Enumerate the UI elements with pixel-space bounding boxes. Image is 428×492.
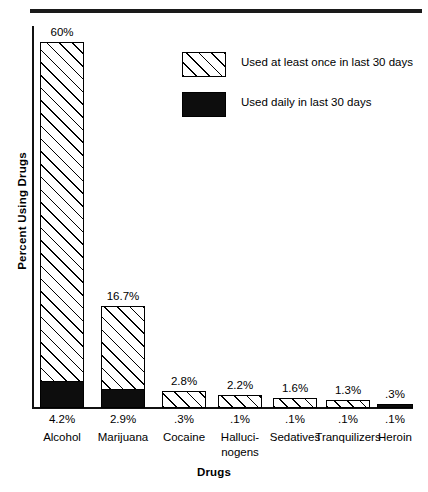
bar-group-tranquilizers: 1.3% [326,20,370,408]
legend-label-used-daily: Used daily in last 30 days [241,96,371,108]
x-tick-heroin: .1%Heroin [345,412,428,445]
drug-use-bar-chart: Percent Using Drugs Drugs 60%16.7%2.8%2.… [0,0,428,492]
daily-value-label-heroin: .1% [345,412,428,427]
bar-value-label-cocaine: 2.8% [171,375,197,387]
bar-group-alcohol: 60% [40,20,84,408]
legend-swatch-hatched [182,52,226,77]
category-name-heroin: Heroin [345,430,428,445]
bar-hatch-fill [327,401,369,407]
bar-group-sedatives: 1.6% [273,20,317,408]
bar-daily-segment [41,381,83,407]
bar-hatch-fill [219,396,261,407]
bar-value-label-heroin: .3% [385,388,405,400]
bar-hatch-fill [41,43,83,407]
bar-group-cocaine: 2.8% [162,20,206,408]
bar-hatch-fill [163,392,205,407]
y-axis-title: Percent Using Drugs [16,131,28,291]
bar-hallucinogens [218,395,262,408]
bar-value-label-marijuana: 16.7% [107,290,140,302]
bar-daily-segment [102,389,144,407]
bar-marijuana [101,306,145,408]
bar-value-label-tranquilizers: 1.3% [335,384,361,396]
bar-value-label-sedatives: 1.6% [282,382,308,394]
bar-alcohol [40,42,84,408]
x-axis-title: Drugs [0,466,428,478]
legend-label-used-once: Used at least once in last 30 days [241,56,413,68]
bar-value-label-alcohol: 60% [50,26,73,38]
bar-tranquilizers [326,400,370,408]
plot-area: 60%16.7%2.8%2.2%1.6%1.3%.3% [32,20,413,408]
bar-cocaine [162,391,206,408]
bar-sedatives [273,398,317,408]
top-divider-rule [30,9,422,13]
bar-group-marijuana: 16.7% [101,20,145,408]
bar-group-hallucinogens: 2.2% [218,20,262,408]
category-name-hallucinogens-line2: nogens [190,445,290,460]
legend-swatch-solid-black [182,92,226,117]
bar-value-label-hallucinogens: 2.2% [227,379,253,391]
bar-group-heroin: .3% [377,20,413,408]
bar-hatch-fill [274,399,316,407]
bar-heroin [377,404,413,408]
